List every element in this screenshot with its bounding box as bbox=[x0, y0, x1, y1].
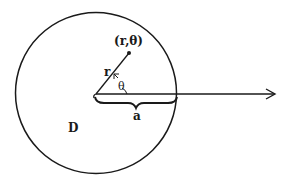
radius-label: r bbox=[104, 65, 111, 79]
region-label: D bbox=[68, 121, 78, 135]
angle-label: θ bbox=[118, 80, 125, 93]
point-label: (r,θ) bbox=[114, 34, 143, 48]
disk-radius-label: a bbox=[133, 109, 141, 123]
point-marker bbox=[127, 51, 131, 55]
polar-disk-diagram: (r,θ) r θ a D bbox=[0, 0, 292, 176]
radius-brace bbox=[95, 97, 177, 108]
radius-arrow-icon bbox=[114, 74, 119, 79]
